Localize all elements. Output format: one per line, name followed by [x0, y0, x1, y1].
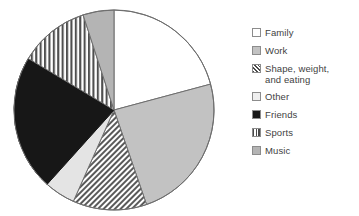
pie-slice-group	[14, 10, 214, 210]
legend-item[interactable]: Work	[252, 45, 356, 56]
legend-item-label: Sports	[265, 127, 293, 138]
legend-item-label: Family	[265, 27, 294, 38]
swatch-black	[252, 110, 261, 119]
legend-item-label: Friends	[265, 109, 297, 120]
legend-item[interactable]: Other	[252, 91, 356, 102]
legend-item[interactable]: Family	[252, 27, 356, 38]
chart-legend: FamilyWorkShape, weight, and eatingOther…	[252, 27, 356, 163]
pie-chart-figure: FamilyWorkShape, weight, and eatingOther…	[0, 0, 359, 216]
swatch-diagonal-hatch	[252, 64, 261, 73]
legend-item-label: Work	[265, 45, 287, 56]
legend-item-label: Shape, weight, and eating	[265, 63, 329, 85]
swatch-vertical-stripe	[252, 128, 261, 137]
pie-chart-svg	[0, 0, 228, 216]
legend-item-label: Music	[265, 145, 290, 156]
swatch-light-gray	[252, 46, 261, 55]
swatch-medium-gray	[252, 146, 261, 155]
legend-item-label: Other	[265, 91, 289, 102]
swatch-very-light-gray	[252, 92, 261, 101]
legend-item[interactable]: Shape, weight, and eating	[252, 63, 356, 85]
legend-item[interactable]: Sports	[252, 127, 356, 138]
swatch-white	[252, 28, 261, 37]
pie-chart-plot-area	[0, 0, 228, 216]
legend-item[interactable]: Friends	[252, 109, 356, 120]
legend-item[interactable]: Music	[252, 145, 356, 156]
